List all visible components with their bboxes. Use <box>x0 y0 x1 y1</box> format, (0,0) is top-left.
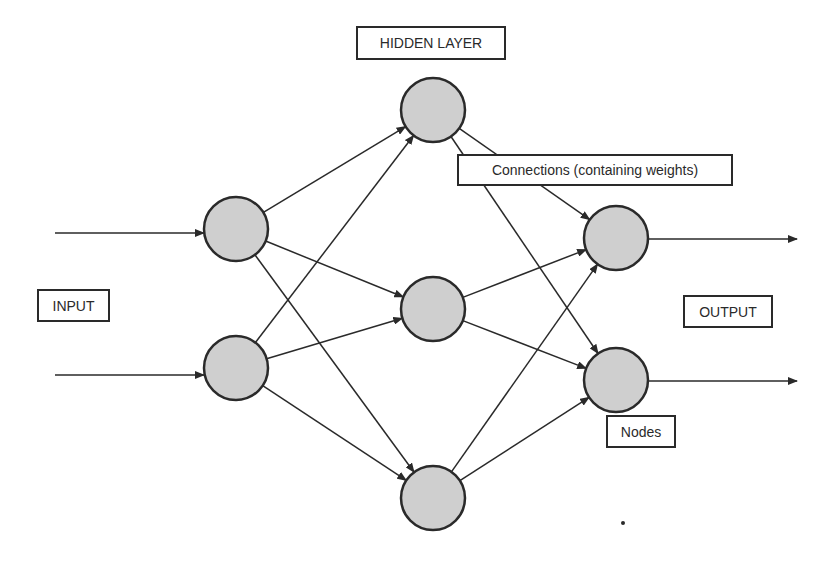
weighted-connection <box>460 397 589 480</box>
weighted-connection <box>266 241 404 297</box>
input-node-1 <box>204 197 268 261</box>
output-node-2 <box>584 348 648 412</box>
nodes-label: Nodes <box>606 415 676 448</box>
output-label: OUTPUT <box>683 295 773 328</box>
stray-dot <box>621 521 625 525</box>
hidden-node-3 <box>401 466 465 530</box>
output-node-1 <box>584 206 648 270</box>
weighted-connection <box>463 321 586 369</box>
input-node-2 <box>204 336 268 400</box>
weighted-connection <box>263 127 405 213</box>
weighted-connection <box>463 250 586 298</box>
hidden-node-2 <box>401 277 465 341</box>
weighted-connection <box>451 264 597 472</box>
nodes <box>204 78 648 530</box>
hidden-node-1 <box>401 78 465 142</box>
weighted-connection <box>255 135 413 342</box>
input-label: INPUT <box>37 289 110 322</box>
neural-network-diagram <box>0 0 834 562</box>
hidden-layer-label: HIDDEN LAYER <box>356 26 506 60</box>
weighted-connection <box>267 318 403 359</box>
connections-label: Connections (containing weights) <box>457 154 733 186</box>
weighted-connection <box>255 255 414 472</box>
